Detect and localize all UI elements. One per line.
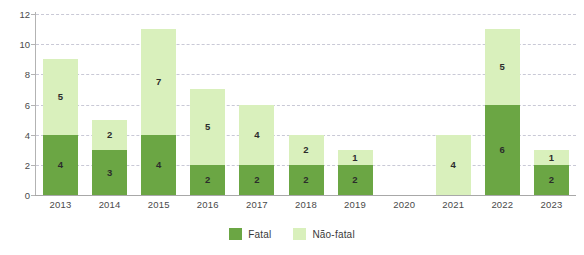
- bar-value-label: 2: [205, 175, 210, 185]
- bar-value-label: 5: [205, 122, 210, 132]
- bar-stack-2014[interactable]: 23: [92, 120, 127, 195]
- plot-area: 5423745242221245612: [36, 14, 576, 195]
- bar-segment-nao-fatal-2022[interactable]: 5: [485, 29, 520, 104]
- bar-stack-2018[interactable]: 22: [289, 135, 324, 195]
- bar-stack-2023[interactable]: 12: [534, 150, 569, 195]
- bar-value-label: 4: [156, 160, 161, 170]
- bar-stack-2013[interactable]: 54: [43, 59, 78, 195]
- bar-segment-fatal-2019[interactable]: 2: [338, 165, 373, 195]
- bar-stack-2022[interactable]: 56: [485, 29, 520, 195]
- bar-stack-2016[interactable]: 52: [190, 89, 225, 195]
- y-tick-mark: [31, 74, 35, 75]
- x-tick-label-2022: 2022: [478, 199, 527, 210]
- bar-segment-nao-fatal-2023[interactable]: 1: [534, 150, 569, 165]
- bar-value-label: 2: [549, 175, 554, 185]
- bar-stack-2015[interactable]: 74: [141, 29, 176, 195]
- bar-stack-2021[interactable]: 4: [436, 135, 471, 195]
- x-tick-label-2019: 2019: [331, 199, 380, 210]
- bar-segment-nao-fatal-2017[interactable]: 4: [239, 105, 274, 165]
- y-tick-label: 10: [0, 39, 30, 50]
- bar-value-label: 5: [58, 92, 63, 102]
- y-tick-mark: [31, 44, 35, 45]
- y-tick-mark: [31, 105, 35, 106]
- y-tick-label: 2: [0, 159, 30, 170]
- bar-value-label: 5: [500, 62, 505, 72]
- legend-item-fatal[interactable]: Fatal: [229, 228, 271, 240]
- x-tick-label-2023: 2023: [527, 199, 576, 210]
- bar-segment-fatal-2013[interactable]: 4: [43, 135, 78, 195]
- x-tick-label-2013: 2013: [36, 199, 85, 210]
- bar-segment-nao-fatal-2019[interactable]: 1: [338, 150, 373, 165]
- bar-value-label: 4: [58, 160, 63, 170]
- bar-segment-fatal-2018[interactable]: 2: [289, 165, 324, 195]
- x-tick-label-2014: 2014: [85, 199, 134, 210]
- bar-segment-fatal-2015[interactable]: 4: [141, 135, 176, 195]
- bar-stack-2019[interactable]: 12: [338, 150, 373, 195]
- x-tick-label-2016: 2016: [183, 199, 232, 210]
- stacked-bar-chart: 024681012 5423745242221245612 2013201420…: [0, 0, 584, 255]
- bar-value-label: 4: [451, 160, 456, 170]
- y-tick-label: 12: [0, 9, 30, 20]
- x-tick-label-2015: 2015: [134, 199, 183, 210]
- bar-segment-nao-fatal-2014[interactable]: 2: [92, 120, 127, 150]
- x-axis-line: [35, 195, 576, 196]
- bar-segment-nao-fatal-2021[interactable]: 4: [436, 135, 471, 195]
- bar-value-label: 1: [549, 153, 554, 163]
- bar-segment-fatal-2016[interactable]: 2: [190, 165, 225, 195]
- legend-label: Não-fatal: [312, 229, 354, 240]
- bar-value-label: 2: [303, 145, 308, 155]
- x-tick-label-2020: 2020: [380, 199, 429, 210]
- bar-segment-nao-fatal-2013[interactable]: 5: [43, 59, 78, 134]
- bar-value-label: 6: [500, 145, 505, 155]
- y-tick-label: 4: [0, 129, 30, 140]
- bar-value-label: 1: [352, 153, 357, 163]
- chart-legend: FatalNão-fatal: [0, 228, 584, 240]
- bar-segment-fatal-2014[interactable]: 3: [92, 150, 127, 195]
- x-tick-label-2017: 2017: [232, 199, 281, 210]
- bar-segment-nao-fatal-2018[interactable]: 2: [289, 135, 324, 165]
- bar-value-label: 2: [107, 130, 112, 140]
- bar-value-label: 2: [303, 175, 308, 185]
- y-tick-mark: [31, 195, 35, 196]
- bar-value-label: 4: [254, 130, 259, 140]
- gridline-12: [36, 14, 576, 15]
- y-tick-mark: [31, 14, 35, 15]
- bar-segment-nao-fatal-2016[interactable]: 5: [190, 89, 225, 164]
- x-tick-label-2021: 2021: [429, 199, 478, 210]
- bar-value-label: 7: [156, 77, 161, 87]
- x-tick-label-2018: 2018: [281, 199, 330, 210]
- bar-segment-fatal-2023[interactable]: 2: [534, 165, 569, 195]
- legend-item-nao-fatal[interactable]: Não-fatal: [293, 228, 354, 240]
- bar-value-label: 2: [352, 175, 357, 185]
- y-tick-label: 6: [0, 99, 30, 110]
- y-tick-mark: [31, 165, 35, 166]
- bar-value-label: 2: [254, 175, 259, 185]
- bar-segment-fatal-2017[interactable]: 2: [239, 165, 274, 195]
- y-tick-label: 0: [0, 190, 30, 201]
- legend-swatch-icon: [293, 228, 306, 240]
- legend-label: Fatal: [248, 229, 271, 240]
- bar-segment-fatal-2022[interactable]: 6: [485, 105, 520, 196]
- legend-swatch-icon: [229, 228, 242, 240]
- bar-segment-nao-fatal-2015[interactable]: 7: [141, 29, 176, 135]
- y-tick-label: 8: [0, 69, 30, 80]
- bar-value-label: 3: [107, 168, 112, 178]
- y-tick-mark: [31, 135, 35, 136]
- bar-stack-2017[interactable]: 42: [239, 105, 274, 195]
